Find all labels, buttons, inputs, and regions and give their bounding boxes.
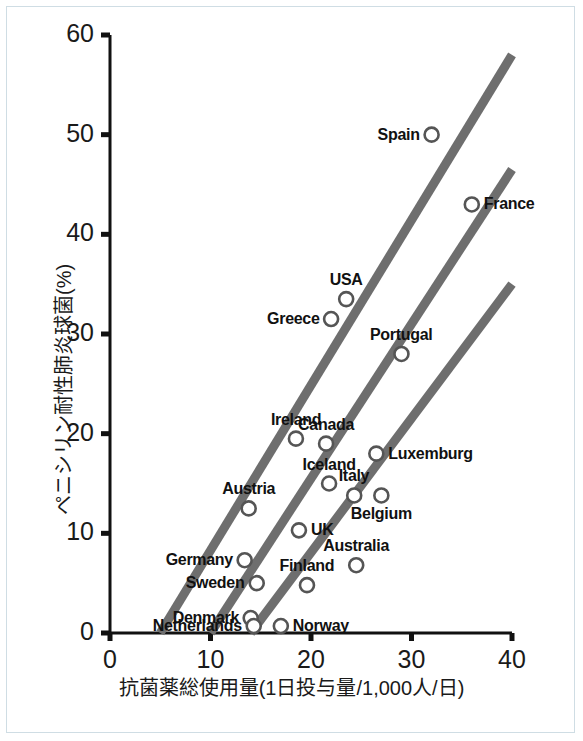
data-point-marker — [292, 523, 306, 537]
y-tick-label: 40 — [34, 218, 94, 247]
point-label: USA — [330, 271, 363, 289]
point-label: Sweden — [186, 574, 245, 592]
data-point-marker — [347, 488, 361, 502]
y-tick-label: 10 — [34, 517, 94, 546]
point-label: Greece — [267, 310, 319, 328]
point-label: Portugal — [370, 326, 433, 344]
data-point-marker — [322, 477, 336, 491]
chart-page: SpainFranceUSAGreecePortugalIrelandCanad… — [0, 0, 583, 741]
point-label: Canada — [298, 416, 354, 434]
data-point-marker — [369, 447, 383, 461]
data-point-marker — [324, 312, 338, 326]
point-label: Finland — [279, 557, 334, 575]
x-tick-label: 40 — [482, 645, 542, 674]
y-tick-label: 0 — [34, 617, 94, 646]
y-axis-title: ペニシリン耐性肺炎球菌(%) — [48, 264, 77, 515]
data-point-marker — [425, 128, 439, 142]
y-tick-label: 60 — [34, 19, 94, 48]
data-point-marker — [465, 197, 479, 211]
data-point-marker — [250, 576, 264, 590]
point-label: Luxemburg — [388, 445, 472, 463]
data-point-marker — [274, 619, 288, 633]
point-label: Germany — [166, 551, 233, 569]
x-tick-label: 10 — [181, 645, 241, 674]
x-tick-label: 30 — [382, 645, 442, 674]
data-point-marker — [289, 432, 303, 446]
point-label: Italy — [339, 467, 370, 485]
data-point-marker — [374, 488, 388, 502]
point-label: Belgium — [351, 505, 412, 523]
point-label: Netherlands — [153, 617, 242, 635]
data-point-marker — [339, 292, 353, 306]
data-point-marker — [300, 578, 314, 592]
data-point-marker — [238, 553, 252, 567]
data-point-marker — [242, 501, 256, 515]
point-label: Norway — [293, 617, 349, 635]
y-tick-label: 50 — [34, 119, 94, 148]
point-label: Austria — [222, 480, 275, 498]
x-tick-label: 20 — [281, 645, 341, 674]
data-point-marker — [319, 437, 333, 451]
axes — [101, 35, 512, 641]
data-point-marker — [247, 619, 261, 633]
point-label: Australia — [323, 537, 389, 555]
data-point-marker — [394, 347, 408, 361]
data-point-marker — [349, 558, 363, 572]
x-axis-title: 抗菌薬総使用量(1日投与量/1,000人/日) — [0, 672, 583, 701]
point-label: Spain — [378, 126, 420, 144]
point-label: France — [484, 195, 535, 213]
x-tick-label: 0 — [80, 645, 140, 674]
